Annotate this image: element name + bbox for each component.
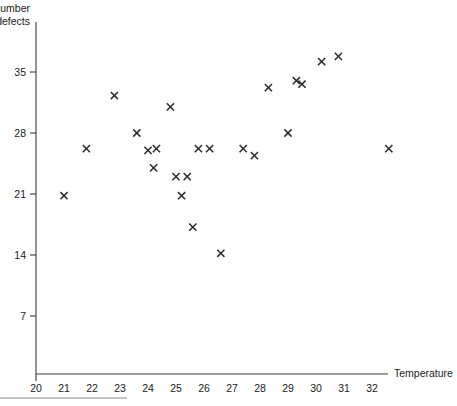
- x-tick-label: 24: [142, 382, 154, 394]
- data-point-marker: [240, 145, 247, 152]
- data-point-marker: [265, 84, 272, 91]
- data-point-marker: [318, 58, 325, 65]
- scatter-plot: 714212835 20212223242526272829303132 Num…: [0, 0, 457, 406]
- data-point-marker: [178, 192, 185, 199]
- data-point-marker: [150, 164, 157, 171]
- x-tick-label: 22: [86, 382, 98, 394]
- data-point-marker: [83, 145, 90, 152]
- data-point-marker: [167, 103, 174, 110]
- data-point-marker: [251, 152, 258, 159]
- y-tick-label: 21: [14, 188, 26, 200]
- x-tick-label: 32: [366, 382, 378, 394]
- data-point-marker: [284, 129, 291, 136]
- x-tick-label: 26: [198, 382, 210, 394]
- y-axis-title-line2: of defects: [0, 15, 30, 27]
- data-point-marker: [195, 145, 202, 152]
- data-point-marker: [111, 92, 118, 99]
- data-point-marker: [60, 192, 67, 199]
- y-axis-ticks: 714212835: [14, 66, 36, 322]
- data-point-marker: [133, 129, 140, 136]
- data-points: [60, 53, 392, 257]
- x-tick-label: 30: [310, 382, 322, 394]
- y-axis-title-line1: Number: [0, 2, 30, 14]
- data-point-marker: [206, 145, 213, 152]
- y-tick-label: 14: [14, 249, 26, 261]
- y-tick-label: 7: [20, 310, 26, 322]
- x-tick-label: 29: [282, 382, 294, 394]
- data-point-marker: [153, 145, 160, 152]
- y-tick-label: 35: [14, 66, 26, 78]
- x-axis-ticks: 20212223242526272829303132: [30, 374, 378, 394]
- data-point-marker: [144, 147, 151, 154]
- data-point-marker: [385, 145, 392, 152]
- data-point-marker: [189, 224, 196, 231]
- data-point-marker: [184, 173, 191, 180]
- x-tick-label: 28: [254, 382, 266, 394]
- x-tick-label: 23: [114, 382, 126, 394]
- x-tick-label: 31: [338, 382, 350, 394]
- data-point-marker: [217, 250, 224, 257]
- x-tick-label: 21: [58, 382, 70, 394]
- x-axis-title: Temperature: [394, 367, 453, 379]
- chart-canvas: 714212835 20212223242526272829303132 Num…: [0, 0, 457, 406]
- axes: [36, 22, 388, 374]
- data-point-marker: [335, 53, 342, 60]
- data-point-marker: [172, 173, 179, 180]
- y-tick-label: 28: [14, 127, 26, 139]
- x-tick-label: 20: [30, 382, 42, 394]
- x-tick-label: 27: [226, 382, 238, 394]
- x-tick-label: 25: [170, 382, 182, 394]
